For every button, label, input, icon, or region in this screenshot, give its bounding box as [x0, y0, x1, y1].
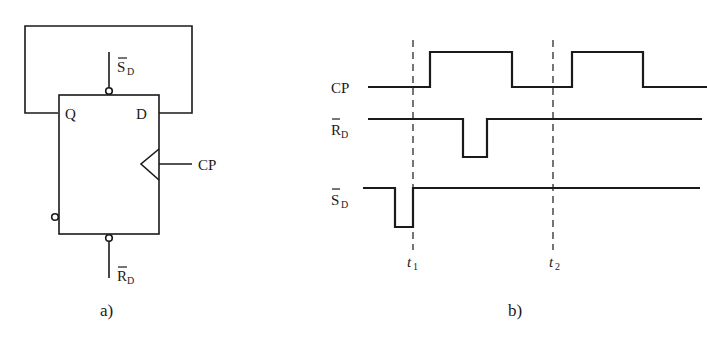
qbar-inversion-bubble [52, 214, 59, 221]
panel-a-flip-flop [25, 26, 192, 278]
t1-marker-label: t [407, 254, 412, 270]
panel-b-timing [363, 40, 707, 250]
t2-marker-subscript: 2 [555, 261, 560, 272]
diagram-canvas: Q D CP S D R D a) CP R D S D t 1 t 2 b) [0, 0, 707, 352]
cp-waveform [368, 52, 707, 87]
t2-marker-label: t [549, 254, 554, 270]
panel-a-caption: a) [100, 301, 113, 320]
sd-inversion-bubble [106, 88, 113, 95]
sd-pin-label: S [117, 59, 125, 75]
sd-signal-label: S [331, 192, 339, 208]
rd-inversion-bubble [106, 235, 113, 242]
rd-signal-label: R [331, 122, 341, 138]
sd-pin-subscript: D [127, 66, 134, 77]
panel-a-labels: Q D CP S D R D a) [65, 58, 216, 320]
clock-triangle [141, 149, 159, 180]
panel-b-caption: b) [508, 301, 522, 320]
cp-signal-label: CP [331, 80, 349, 96]
d-pin-label: D [136, 106, 147, 122]
panel-b-labels: CP R D S D t 1 t 2 b) [331, 80, 560, 320]
rd-pin-label: R [117, 268, 127, 284]
q-pin-label: Q [65, 106, 76, 122]
sd-waveform [363, 188, 700, 227]
cp-pin-label: CP [198, 157, 216, 173]
rd-waveform [368, 119, 702, 157]
rd-signal-subscript: D [341, 129, 348, 140]
t1-marker-subscript: 1 [413, 261, 418, 272]
sd-signal-subscript: D [341, 199, 348, 210]
rd-pin-subscript: D [127, 275, 134, 286]
